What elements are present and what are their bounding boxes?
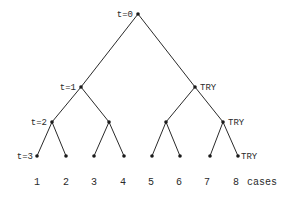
leaf-node-7: [208, 154, 212, 158]
leaf-node-4: [122, 154, 126, 158]
time-labels: t=0 t=1 t=2 t=3: [17, 10, 133, 162]
edge-l2c-leaf6: [166, 122, 180, 156]
cases-axis-label: cases: [247, 177, 277, 188]
edge-l1a-l2b: [81, 87, 109, 122]
time-label-t0: t=0: [117, 10, 133, 20]
node-level2-c: [164, 120, 168, 124]
edge-root-l1a: [81, 14, 138, 87]
decision-tree-diagram: t=0 t=1 t=2 t=3 TRY TRY TRY 1 2 3 4 5 6 …: [0, 0, 288, 198]
case-label-7: 7: [204, 177, 210, 188]
edge-l2d-leaf7: [210, 122, 223, 156]
time-label-t1: t=1: [60, 83, 76, 93]
time-label-t3: t=3: [17, 152, 33, 162]
leaf-node-1: [35, 154, 39, 158]
node-level1-left: [79, 85, 83, 89]
try-label-level2: TRY: [228, 118, 245, 128]
leaf-node-6: [178, 154, 182, 158]
node-level2-a: [50, 120, 54, 124]
case-label-4: 4: [120, 177, 126, 188]
leaf-node-5: [150, 154, 154, 158]
time-label-t2: t=2: [31, 118, 47, 128]
leaf-node-3: [92, 154, 96, 158]
case-labels: 1 2 3 4 5 6 7 8 cases: [34, 177, 277, 188]
case-label-5: 5: [148, 177, 154, 188]
case-label-3: 3: [91, 177, 97, 188]
edge-l2a-leaf2: [52, 122, 66, 156]
edge-l2b-leaf3: [94, 122, 109, 156]
edge-l1b-l2c: [166, 87, 195, 122]
edge-l2c-leaf5: [152, 122, 166, 156]
case-label-2: 2: [63, 177, 69, 188]
leaf-node-8: [236, 154, 240, 158]
edge-root-l1b: [138, 14, 195, 87]
try-label-leaf: TRY: [241, 152, 258, 162]
node-level2-b: [107, 120, 111, 124]
try-labels: TRY TRY TRY: [200, 83, 258, 162]
node-level2-d: [221, 120, 225, 124]
edge-l2b-leaf4: [109, 122, 124, 156]
case-label-8: 8: [233, 177, 239, 188]
case-label-6: 6: [176, 177, 182, 188]
leaf-node-2: [64, 154, 68, 158]
case-label-1: 1: [34, 177, 40, 188]
node-level1-right: [193, 85, 197, 89]
try-label-level1: TRY: [200, 83, 217, 93]
node-root: [136, 12, 140, 16]
